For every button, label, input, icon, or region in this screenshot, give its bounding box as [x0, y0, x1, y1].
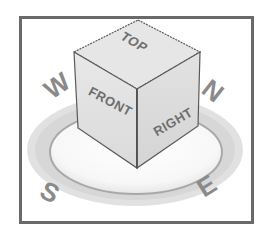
compass-west[interactable]: W — [38, 66, 76, 105]
viewcube-widget[interactable]: W N S E TOP FRONT RIGHT — [0, 0, 265, 232]
compass-south[interactable]: S — [35, 175, 64, 210]
compass-north[interactable]: N — [196, 73, 229, 108]
